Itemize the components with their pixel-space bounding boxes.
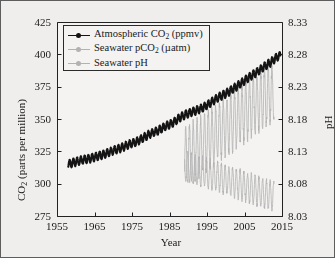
legend-item-seawater-pco2: Seawater pCO2 (µatm) [64, 42, 209, 56]
y-axis-left-tick-425: 425 [21, 17, 51, 28]
y-axis-left-tick-325: 325 [21, 146, 51, 157]
y-axis-left-tick-400: 400 [21, 49, 51, 60]
legend-marker-atmospheric-co2 [68, 31, 90, 40]
legend-marker-seawater-pco2 [68, 45, 90, 54]
y-axis-right-tick-8.13: 8.13 [288, 146, 322, 157]
y-axis-right-tick-8.08: 8.08 [288, 178, 322, 189]
legend-label-seawater-pco2: Seawater pCO2 (µatm) [94, 42, 190, 57]
y-axis-right-tick-8.03: 8.03 [288, 211, 322, 222]
x-axis-tick-1995: 1995 [187, 221, 227, 232]
y-axis-right-tick-8.28: 8.28 [288, 49, 322, 60]
legend-marker-seawater-ph [68, 59, 90, 68]
legend-label-seawater-ph: Seawater pH [94, 57, 148, 69]
x-axis-tick-2005: 2005 [225, 221, 265, 232]
x-axis-tick-1965: 1965 [75, 221, 115, 232]
y-axis-left-tick-350: 350 [21, 114, 51, 125]
y-axis-right-tick-8.23: 8.23 [288, 81, 322, 92]
y-axis-right-title: pH [323, 116, 334, 129]
x-axis-tick-1975: 1975 [112, 221, 152, 232]
x-axis-tick-2015: 2015 [262, 221, 302, 232]
x-axis-title: Year [151, 237, 191, 248]
y-axis-right-tick-8.33: 8.33 [288, 17, 322, 28]
y-axis-left-tick-300: 300 [21, 178, 51, 189]
y-axis-right-tick-8.18: 8.18 [288, 114, 322, 125]
legend-item-seawater-ph: Seawater pH [64, 56, 209, 70]
legend-item-atmospheric-co2: Atmospheric CO2 (ppmv) [64, 28, 209, 42]
x-axis-tick-1985: 1985 [150, 221, 190, 232]
figure-container: CO2 (parts per million) pH Year Atmosphe… [0, 0, 335, 258]
y-axis-left-tick-375: 375 [21, 81, 51, 92]
legend-label-atmospheric-co2: Atmospheric CO2 (ppmv) [94, 28, 203, 43]
chart-legend: Atmospheric CO2 (ppmv) Seawater pCO2 (µa… [63, 25, 210, 71]
x-axis-tick-1955: 1955 [37, 221, 77, 232]
